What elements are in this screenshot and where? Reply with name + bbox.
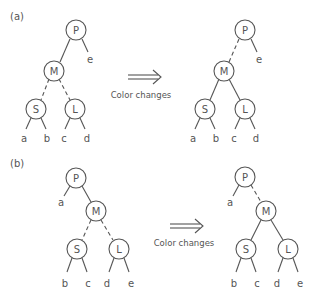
node-label: M bbox=[50, 66, 59, 77]
node-label: S bbox=[243, 244, 249, 255]
edge-b-after-P-a bbox=[233, 185, 239, 196]
node-label: P bbox=[242, 172, 248, 183]
panel-label-b: (b) bbox=[10, 158, 24, 169]
node-label: M bbox=[220, 66, 229, 77]
edge-b-before-P-a bbox=[64, 186, 70, 196]
edge-a-after-L-c bbox=[235, 118, 240, 129]
edge-b-after-M-L bbox=[271, 220, 283, 240]
leaf-label: d bbox=[253, 133, 259, 144]
edge-b-after-M-S bbox=[251, 220, 261, 240]
edge-b-after-L-d bbox=[278, 258, 283, 272]
edge-b-before-L-e bbox=[124, 258, 129, 272]
node-label: L bbox=[242, 104, 248, 115]
edge-a-before-M-L bbox=[59, 79, 70, 100]
edge-b-before-M-L bbox=[101, 220, 113, 240]
leaf-label: e bbox=[256, 54, 262, 65]
color-change-diagram: (a) Color changes P M S L e a b c d P M … bbox=[0, 0, 313, 301]
edge-a-after-P-M bbox=[229, 39, 239, 62]
double-arrow-icon bbox=[170, 219, 203, 233]
node-label: S bbox=[33, 104, 39, 115]
leaf-label: d bbox=[104, 278, 110, 289]
node-label: S bbox=[202, 104, 208, 115]
edge-a-after-S-b bbox=[210, 118, 215, 129]
leaf-label: d bbox=[84, 133, 90, 144]
leaf-label: c bbox=[85, 278, 91, 289]
node-label: L bbox=[285, 244, 291, 255]
leaf-label: c bbox=[231, 133, 237, 144]
node-label: L bbox=[116, 244, 122, 255]
node-label: L bbox=[72, 104, 78, 115]
edge-a-before-L-c bbox=[65, 118, 70, 129]
leaf-label: e bbox=[297, 278, 303, 289]
edge-a-before-M-S bbox=[41, 79, 49, 100]
leaf-label: c bbox=[254, 278, 260, 289]
leaf-label: a bbox=[58, 197, 64, 208]
edge-b-before-S-c bbox=[82, 258, 87, 272]
edge-a-after-M-L bbox=[229, 79, 240, 100]
node-label: M bbox=[92, 206, 101, 217]
leaf-label: b bbox=[44, 133, 50, 144]
leaf-label: e bbox=[128, 278, 134, 289]
edge-a-after-S-a bbox=[195, 118, 200, 129]
edge-a-after-L-d bbox=[250, 118, 255, 129]
edge-a-before-P-M bbox=[60, 39, 70, 62]
edge-b-after-S-b bbox=[236, 258, 241, 272]
double-arrow-icon bbox=[128, 70, 161, 84]
edge-a-before-S-a bbox=[26, 118, 31, 129]
edge-b-after-S-c bbox=[251, 258, 256, 272]
edge-a-after-P-e bbox=[251, 39, 257, 52]
edge-b-before-P-M bbox=[82, 186, 91, 202]
leaf-label: d bbox=[274, 278, 280, 289]
node-label: M bbox=[262, 206, 271, 217]
leaf-label: a bbox=[227, 197, 233, 208]
edge-a-after-M-S bbox=[210, 79, 219, 100]
arrow-caption-b: Color changes bbox=[154, 238, 215, 248]
leaf-label: b bbox=[62, 278, 68, 289]
edge-b-before-M-S bbox=[82, 220, 91, 240]
leaf-label: b bbox=[231, 278, 237, 289]
arrow-caption-a: Color changes bbox=[111, 90, 172, 100]
leaf-label: c bbox=[61, 133, 67, 144]
edge-a-before-P-e bbox=[82, 39, 88, 52]
edge-a-before-S-b bbox=[41, 118, 46, 129]
edge-b-before-S-b bbox=[67, 258, 72, 272]
leaf-label: b bbox=[213, 133, 219, 144]
leaf-label: e bbox=[87, 54, 93, 65]
edge-b-after-L-e bbox=[293, 258, 298, 272]
node-label: S bbox=[74, 244, 80, 255]
node-label: P bbox=[73, 173, 79, 184]
leaf-label: a bbox=[21, 133, 27, 144]
leaf-label: a bbox=[190, 133, 196, 144]
node-label: P bbox=[73, 25, 79, 36]
edge-a-before-L-d bbox=[80, 118, 85, 129]
node-label: P bbox=[242, 25, 248, 36]
panel-label-a: (a) bbox=[10, 11, 24, 22]
edge-b-before-L-d bbox=[109, 258, 114, 272]
edge-b-after-P-M bbox=[251, 185, 261, 202]
